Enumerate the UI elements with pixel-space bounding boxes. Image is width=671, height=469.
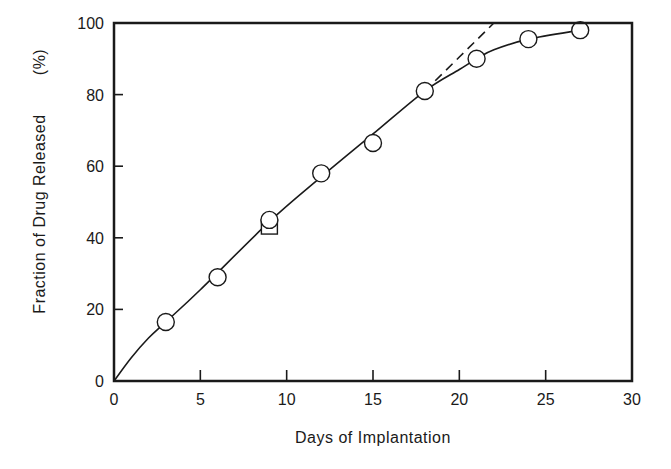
y-tick-label: 20 (86, 301, 104, 318)
x-tick-label: 10 (278, 391, 296, 408)
data-point-circle (313, 165, 330, 182)
y-tick-label: 40 (86, 230, 104, 247)
y-tick-label: 60 (86, 158, 104, 175)
axis-ticks (114, 95, 546, 381)
fitted-curve (114, 30, 580, 381)
x-tick-label: 5 (196, 391, 205, 408)
y-tick-label: 80 (86, 87, 104, 104)
x-axis-title: Days of Implantation (295, 429, 451, 446)
x-tick-label: 25 (537, 391, 555, 408)
data-point-circle (416, 83, 433, 100)
curves (114, 23, 580, 381)
x-tick-label: 20 (450, 391, 468, 408)
data-point-circle (520, 31, 537, 48)
x-tick-label: 0 (110, 391, 119, 408)
data-point-circle (157, 313, 174, 330)
data-point-circle (468, 50, 485, 67)
data-point-circle (365, 134, 382, 151)
y-axis-unit: (%) (31, 49, 48, 75)
data-markers (157, 22, 588, 331)
y-tick-labels: 020406080100 (77, 15, 104, 390)
x-tick-labels: 051015202530 (110, 391, 641, 408)
y-tick-label: 100 (77, 15, 104, 32)
chart: 051015202530 020406080100 Days of Implan… (0, 0, 671, 469)
x-tick-label: 30 (623, 391, 641, 408)
y-axis-title: Fraction of Drug Released (31, 114, 48, 313)
x-tick-label: 15 (364, 391, 382, 408)
y-tick-label: 0 (95, 373, 104, 390)
plot-frame (114, 23, 632, 381)
data-point-circle (209, 269, 226, 286)
data-point-circle (261, 211, 278, 228)
